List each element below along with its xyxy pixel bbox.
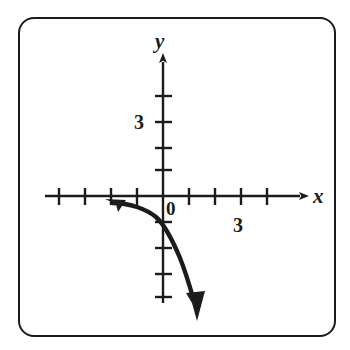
coordinate-plane-svg — [0, 0, 350, 350]
x-axis-tick-label-3: 3 — [233, 215, 243, 235]
x-axis-label: x — [313, 186, 324, 207]
y-axis-label: y — [155, 31, 164, 52]
curve-bottom-arrowhead — [186, 291, 205, 321]
origin-label: 0 — [166, 199, 176, 218]
exponential-curve — [105, 199, 205, 321]
y-axis-tick-label-3: 3 — [134, 112, 144, 132]
figure-root: 3 3 0 y x — [0, 0, 350, 350]
